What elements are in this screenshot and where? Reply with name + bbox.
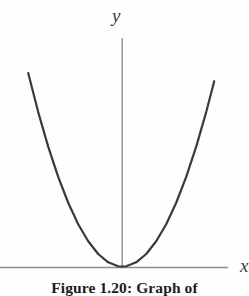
- x-axis-label: x: [240, 256, 248, 275]
- figure-caption-text: Figure 1.20: Graph of: [0, 279, 249, 296]
- figure-caption: Figure 1.20: Graph of: [0, 279, 249, 296]
- parabola-curve: [28, 73, 214, 267]
- parabola-plot: [0, 0, 249, 272]
- figure-container: y x Figure 1.20: Graph of: [0, 0, 249, 296]
- plot-area: y x: [0, 0, 249, 272]
- y-axis-label: y: [112, 6, 120, 25]
